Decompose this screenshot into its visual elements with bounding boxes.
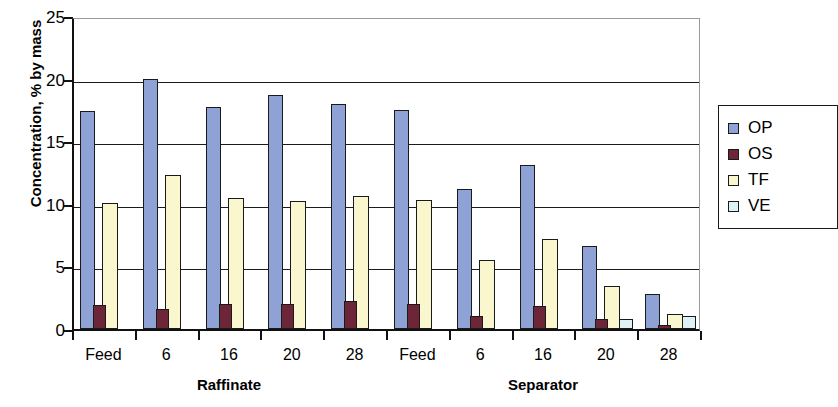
x-axis-tick-mark [386, 331, 388, 340]
bar [143, 79, 158, 329]
legend-swatch-icon [728, 149, 739, 160]
bar [645, 294, 660, 329]
bar [268, 95, 283, 329]
bar [165, 175, 181, 329]
bar [206, 107, 221, 329]
gridline [74, 82, 699, 83]
bar [281, 304, 294, 329]
x-axis-tick-mark [700, 331, 702, 340]
bar [533, 306, 546, 329]
legend-swatch-icon [728, 175, 739, 186]
x-axis-tick-label: Feed [85, 346, 121, 364]
x-axis-tick-label: 28 [660, 346, 678, 364]
x-axis-tick-label: 6 [476, 346, 485, 364]
x-axis-tick-label: Feed [399, 346, 435, 364]
y-axis-tick-label: 25 [21, 8, 65, 28]
bar [595, 319, 608, 329]
y-axis-tick-label: 5 [21, 258, 65, 278]
x-axis-tick-mark [72, 331, 74, 340]
x-axis-tick-mark [323, 331, 325, 340]
x-axis-tick-mark [135, 331, 137, 340]
x-axis-tick-label: 20 [597, 346, 615, 364]
bar [470, 316, 483, 329]
y-axis-tick-label: 20 [21, 71, 65, 91]
legend-item-label: VE [748, 196, 771, 216]
x-axis-tick-mark [574, 331, 576, 340]
bar [682, 316, 696, 329]
bar [407, 304, 420, 329]
x-axis-tick-label: 16 [220, 346, 238, 364]
x-axis-tick-mark [260, 331, 262, 340]
x-axis-group-label: Raffinate [197, 376, 261, 393]
legend-item-label: OP [748, 118, 773, 138]
bar [344, 301, 357, 329]
bar [219, 304, 232, 329]
x-axis-tick-mark [512, 331, 514, 340]
y-axis-tick-label: 0 [21, 321, 65, 341]
x-axis-tick-label: 28 [346, 346, 364, 364]
x-axis-tick-mark [449, 331, 451, 340]
bar [331, 104, 346, 329]
gridline [74, 144, 699, 145]
legend-item[interactable]: TF [728, 167, 837, 193]
x-axis-tick-mark [637, 331, 639, 340]
legend-swatch-icon [728, 201, 739, 212]
legend-item[interactable]: VE [728, 193, 837, 219]
bar [619, 319, 633, 329]
legend-item[interactable]: OS [728, 141, 837, 167]
x-axis-tick-mark [198, 331, 200, 340]
legend-item-label: TF [748, 170, 769, 190]
bar [520, 165, 535, 329]
x-axis-tick-label: 6 [162, 346, 171, 364]
x-axis-group-label: Separator [508, 376, 578, 393]
chart-legend: OPOSTFVE [718, 105, 838, 229]
legend-item-label: OS [748, 144, 773, 164]
bar [582, 246, 597, 329]
x-axis-tick-label: 20 [283, 346, 301, 364]
bar [457, 189, 472, 329]
bar [394, 110, 409, 329]
bar [658, 325, 671, 329]
plot-area [72, 18, 700, 331]
y-axis-tick-label: 15 [21, 133, 65, 153]
bar [80, 111, 95, 329]
bar [93, 305, 106, 329]
y-axis-tick-label: 10 [21, 196, 65, 216]
x-axis-tick-label: 16 [534, 346, 552, 364]
bar [156, 309, 169, 329]
legend-item[interactable]: OP [728, 115, 837, 141]
legend-swatch-icon [728, 123, 739, 134]
